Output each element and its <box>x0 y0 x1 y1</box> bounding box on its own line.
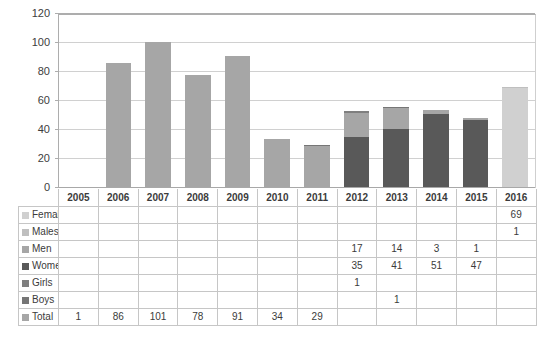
table-cell <box>59 291 99 308</box>
table-cell <box>496 291 536 308</box>
column-header-year: 2011 <box>297 189 337 206</box>
bar-group <box>59 15 99 188</box>
column-header-year: 2010 <box>257 189 297 206</box>
table-cell: 17 <box>337 240 377 257</box>
table-cell <box>178 240 218 257</box>
bar <box>106 63 131 188</box>
bar <box>463 118 488 188</box>
table-cell <box>297 274 337 291</box>
bar-group <box>376 15 416 188</box>
table-cell <box>456 308 496 325</box>
table-cell <box>297 291 337 308</box>
bar-segment-men <box>463 118 488 119</box>
table-cell: 69 <box>496 206 536 223</box>
row-header-total: Total <box>19 308 59 325</box>
table-cell: 1 <box>456 240 496 257</box>
table-cell <box>59 240 99 257</box>
table-cell <box>297 240 337 257</box>
table-cell: 47 <box>456 257 496 274</box>
legend-swatch-icon <box>22 263 29 270</box>
table-cell: 78 <box>178 308 218 325</box>
y-axis-tick-label: 60 <box>38 95 50 106</box>
table-cell <box>456 274 496 291</box>
column-header-year: 2016 <box>496 189 536 206</box>
bar-group <box>178 15 218 188</box>
row-label: Men <box>32 241 51 256</box>
table-cell <box>337 223 377 240</box>
row-label: Women <box>32 258 59 273</box>
table-row: Women35415147 <box>19 257 537 274</box>
column-header-year: 2006 <box>98 189 138 206</box>
column-header-year: 2012 <box>337 189 377 206</box>
table-cell <box>218 206 258 223</box>
table-cell <box>178 223 218 240</box>
y-axis-tick-label: 100 <box>32 37 50 48</box>
bar-segment-men <box>344 113 369 138</box>
table-cell <box>257 240 297 257</box>
row-label: Females <box>32 207 59 222</box>
table-cell <box>138 257 178 274</box>
bar <box>383 107 408 188</box>
bar-segment-girls <box>344 111 369 112</box>
bar-segment-total <box>225 56 250 188</box>
bar-group <box>337 15 377 188</box>
row-header-females: Females <box>19 206 59 223</box>
table-cell <box>337 308 377 325</box>
table-cell: 86 <box>98 308 138 325</box>
table-cell <box>257 274 297 291</box>
bar-segment-women <box>463 120 488 188</box>
table-cell <box>297 257 337 274</box>
bar-group <box>218 15 258 188</box>
table-cell <box>496 274 536 291</box>
row-label: Girls <box>32 275 53 290</box>
table-cell <box>59 206 99 223</box>
bar <box>225 56 250 188</box>
table-cell: 51 <box>417 257 457 274</box>
column-header-year: 2005 <box>59 189 99 206</box>
table-cell <box>417 274 457 291</box>
table-cell <box>417 291 457 308</box>
table-cell <box>98 274 138 291</box>
legend-swatch-icon <box>22 297 29 304</box>
column-header-year: 2009 <box>218 189 258 206</box>
x-axis-line <box>59 187 535 188</box>
bar-segment-total <box>106 63 131 188</box>
table-corner-cell <box>19 189 59 206</box>
table-cell <box>377 206 417 223</box>
table-cell <box>496 308 536 325</box>
chart-with-data-table: 020406080100120 200520062007200820092010… <box>0 0 541 341</box>
table-cell: 41 <box>377 257 417 274</box>
bar-segment-total <box>185 75 210 188</box>
table-cell <box>138 240 178 257</box>
table-cell: 1 <box>377 291 417 308</box>
table-cell: 101 <box>138 308 178 325</box>
bar-segment-males <box>502 87 527 88</box>
table-cell: 91 <box>218 308 258 325</box>
column-header-year: 2008 <box>178 189 218 206</box>
table-cell <box>218 257 258 274</box>
column-header-year: 2015 <box>456 189 496 206</box>
table-cell <box>138 274 178 291</box>
bar <box>502 87 527 189</box>
table-cell <box>257 206 297 223</box>
table-row: Females69 <box>19 206 537 223</box>
y-axis-tick-label: 80 <box>38 66 50 77</box>
table-row: Total18610178913429 <box>19 308 537 325</box>
table-cell: 34 <box>257 308 297 325</box>
table-cell <box>417 206 457 223</box>
table-cell: 35 <box>337 257 377 274</box>
column-header-year: 2014 <box>417 189 457 206</box>
table-cell <box>417 308 457 325</box>
y-axis-tick-label: 40 <box>38 124 50 135</box>
table-cell: 1 <box>496 223 536 240</box>
bar-segment-total <box>145 42 170 188</box>
table-cell <box>456 223 496 240</box>
table-cell <box>218 274 258 291</box>
table-cell <box>417 223 457 240</box>
table-cell <box>98 240 138 257</box>
bar <box>344 111 369 188</box>
bar-group <box>495 15 535 188</box>
table-cell <box>297 223 337 240</box>
bar-segment-women <box>423 114 448 188</box>
table-cell <box>377 223 417 240</box>
